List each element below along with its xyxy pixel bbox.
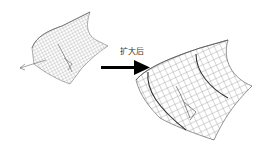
original-surface (20, 12, 108, 84)
enlarged-label: 扩大后 (120, 45, 144, 56)
enlarge-arrow (101, 60, 150, 75)
enlarged-surface (136, 40, 252, 140)
diagram-canvas: 扩大后 (0, 0, 262, 166)
